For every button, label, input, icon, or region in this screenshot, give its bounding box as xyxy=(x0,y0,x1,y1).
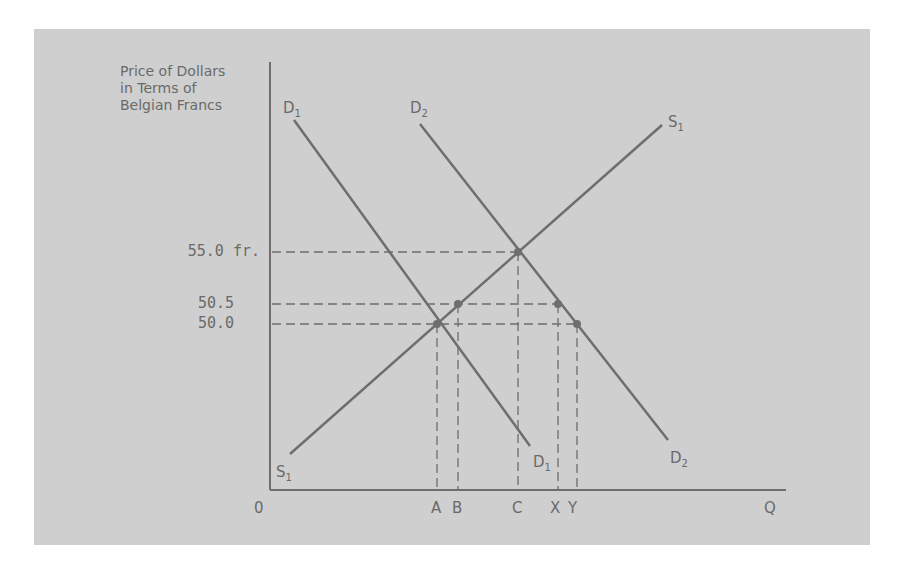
label-d2-bottom: D2 xyxy=(670,450,688,472)
label-s1-bottom: S1 xyxy=(276,464,292,486)
label-d1-top: D1 xyxy=(283,100,301,122)
x-tick-c: C xyxy=(512,500,522,517)
supply-curve-s1 xyxy=(290,125,662,454)
label-d2-top: D2 xyxy=(410,100,428,122)
y-axis-title-line3: Belgian Francs xyxy=(120,97,225,114)
y-axis-title-line1: Price of Dollars xyxy=(120,63,225,80)
demand-curve-d1 xyxy=(294,120,530,446)
x-tick-y: Y xyxy=(568,500,577,517)
y-axis-title: Price of Dollars in Terms of Belgian Fra… xyxy=(120,63,225,114)
y-tick-50: 50.0 xyxy=(154,315,234,332)
x-axis-title: Q xyxy=(764,500,776,517)
label-d1-bottom: D1 xyxy=(533,454,551,476)
x-tick-x: X xyxy=(550,500,560,517)
x-tick-b: B xyxy=(452,500,462,517)
intersection-points xyxy=(433,248,581,328)
y-axis-title-line2: in Terms of xyxy=(120,80,225,97)
x-tick-a: A xyxy=(431,500,441,517)
origin-label: 0 xyxy=(254,500,264,517)
label-s1-top: S1 xyxy=(668,114,684,136)
y-tick-50-5: 50.5 xyxy=(154,295,234,312)
demand-curve-d2 xyxy=(420,124,668,440)
dashed-guides xyxy=(272,252,577,490)
y-tick-55: 55.0 fr. xyxy=(180,243,260,260)
